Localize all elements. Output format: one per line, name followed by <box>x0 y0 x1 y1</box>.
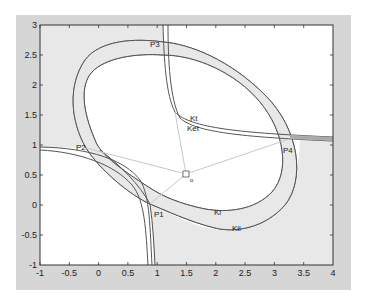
origin-marker-icon <box>183 171 189 177</box>
svg-text:-0.5: -0.5 <box>62 268 78 278</box>
label-p1: P1 <box>154 210 164 219</box>
label-p3: P3 <box>150 40 160 49</box>
svg-text:1.5: 1.5 <box>24 110 37 120</box>
label-p4: P4 <box>283 146 293 155</box>
diagram-figure: -1 -0.5 0 0.5 1 1.5 2 2.5 3 3.5 4 3 2.5 … <box>0 0 365 305</box>
svg-text:3.5: 3.5 <box>297 268 310 278</box>
svg-text:4: 4 <box>330 268 335 278</box>
svg-text:0: 0 <box>32 200 37 210</box>
label-ket: Ket <box>187 124 200 133</box>
svg-text:0: 0 <box>96 268 101 278</box>
label-kil: Kil <box>232 224 241 233</box>
svg-text:1.5: 1.5 <box>180 268 193 278</box>
svg-text:-1: -1 <box>29 260 37 270</box>
svg-text:0.5: 0.5 <box>122 268 135 278</box>
svg-text:1: 1 <box>155 268 160 278</box>
svg-text:2: 2 <box>32 80 37 90</box>
svg-text:2.5: 2.5 <box>239 268 252 278</box>
svg-text:2: 2 <box>213 268 218 278</box>
label-ki: Ki <box>214 208 221 217</box>
svg-text:1: 1 <box>32 140 37 150</box>
label-p2: P2 <box>76 143 86 152</box>
svg-text:3: 3 <box>32 20 37 30</box>
svg-text:3: 3 <box>272 268 277 278</box>
svg-text:-0.5: -0.5 <box>21 230 37 240</box>
svg-text:0.5: 0.5 <box>24 170 37 180</box>
label-kt: Kt <box>190 114 198 123</box>
svg-text:-1: -1 <box>36 268 44 278</box>
svg-text:2.5: 2.5 <box>24 50 37 60</box>
